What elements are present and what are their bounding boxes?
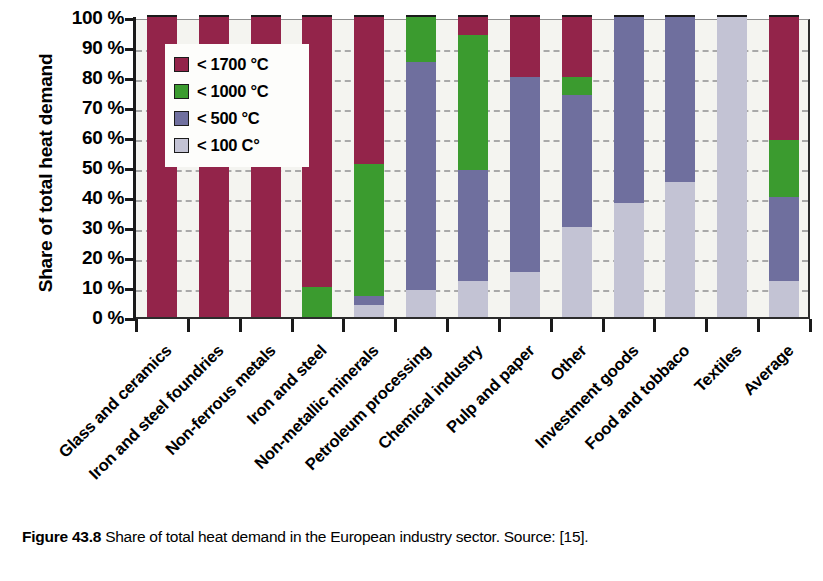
bar-segment bbox=[458, 33, 488, 170]
bar-non-metallic-minerals[interactable] bbox=[354, 17, 384, 317]
bar-chemical-industry[interactable] bbox=[458, 17, 488, 317]
legend-label: < 100 C° bbox=[197, 136, 259, 155]
bar-segment bbox=[510, 15, 540, 77]
y-axis-tick-label: 20 % bbox=[38, 247, 124, 269]
y-axis-tick bbox=[125, 228, 136, 231]
bar-segment bbox=[769, 15, 799, 140]
bar-segment bbox=[406, 60, 436, 290]
bar-segment bbox=[354, 162, 384, 296]
y-axis-tick-label: 10 % bbox=[38, 277, 124, 299]
y-axis-tick-label: 30 % bbox=[38, 217, 124, 239]
bar-segment bbox=[665, 15, 695, 182]
bar-segment bbox=[406, 15, 436, 62]
bar-segment bbox=[406, 288, 436, 317]
bar-segment bbox=[562, 93, 592, 227]
legend-item[interactable]: < 1000 °C bbox=[174, 78, 300, 105]
figure-caption: Figure 43.8 Share of total heat demand i… bbox=[22, 528, 812, 546]
legend: < 1700 °C< 1000 °C< 500 °C< 100 C° bbox=[165, 44, 309, 167]
x-axis-tick bbox=[342, 319, 345, 332]
y-axis-tick bbox=[125, 318, 136, 321]
y-axis-tick bbox=[125, 78, 136, 81]
y-axis-tick-label: 70 % bbox=[38, 97, 124, 119]
y-axis-tick bbox=[125, 258, 136, 261]
bar-segment bbox=[562, 15, 592, 77]
y-axis-tick-label: 100 % bbox=[38, 7, 124, 29]
legend-swatch-icon bbox=[174, 84, 189, 99]
y-axis-tick bbox=[125, 48, 136, 51]
x-axis-tick bbox=[239, 319, 242, 332]
bar-segment bbox=[562, 225, 592, 317]
bar-textiles[interactable] bbox=[717, 17, 747, 317]
bar-segment bbox=[354, 15, 384, 164]
bar-segment bbox=[458, 279, 488, 317]
y-axis-tick-labels: 0 %10 %20 %30 %40 %50 %60 %70 %80 %90 %1… bbox=[28, 0, 124, 340]
bar-segment bbox=[717, 15, 747, 317]
x-axis-tick bbox=[705, 319, 708, 332]
legend-swatch-icon bbox=[174, 111, 189, 126]
y-axis-tick bbox=[125, 198, 136, 201]
bar-segment bbox=[458, 15, 488, 35]
y-axis-tick-label: 50 % bbox=[38, 157, 124, 179]
legend-item[interactable]: < 1700 °C bbox=[174, 51, 300, 78]
bar-segment bbox=[769, 279, 799, 317]
x-axis-tick bbox=[653, 319, 656, 332]
bar-average[interactable] bbox=[769, 17, 799, 317]
bar-other[interactable] bbox=[562, 17, 592, 317]
bar-segment bbox=[354, 303, 384, 317]
bar-segment bbox=[302, 285, 332, 317]
x-axis-tick bbox=[498, 319, 501, 332]
bar-investment-goods[interactable] bbox=[614, 17, 644, 317]
y-axis-tick-label: 80 % bbox=[38, 67, 124, 89]
y-axis-tick bbox=[125, 288, 136, 291]
x-axis-tick bbox=[809, 319, 812, 332]
legend-label: < 1700 °C bbox=[197, 55, 268, 74]
y-axis-tick bbox=[125, 138, 136, 141]
bar-segment bbox=[614, 15, 644, 203]
bar-segment bbox=[458, 168, 488, 281]
y-axis-tick-label: 90 % bbox=[38, 37, 124, 59]
x-axis-category-labels: Glass and ceramicsIron and steel foundri… bbox=[0, 333, 823, 508]
legend-label: < 500 °C bbox=[197, 109, 259, 128]
legend-item[interactable]: < 100 C° bbox=[174, 132, 300, 159]
x-axis-tick bbox=[446, 319, 449, 332]
legend-swatch-icon bbox=[174, 138, 189, 153]
x-axis-tick bbox=[757, 319, 760, 332]
figure-caption-label: Figure 43.8 bbox=[22, 528, 101, 545]
bar-segment bbox=[510, 75, 540, 272]
figure-caption-text: Share of total heat demand in the Europe… bbox=[105, 528, 588, 545]
x-axis-tick bbox=[394, 319, 397, 332]
x-axis-ticks bbox=[136, 319, 810, 333]
bar-segment bbox=[769, 195, 799, 281]
y-axis-tick bbox=[125, 168, 136, 171]
y-axis-tick-label: 0 % bbox=[38, 307, 124, 329]
legend-item[interactable]: < 500 °C bbox=[174, 105, 300, 132]
x-axis-tick bbox=[291, 319, 294, 332]
bar-petroleum-processing[interactable] bbox=[406, 17, 436, 317]
bar-food-and-tobbaco[interactable] bbox=[665, 17, 695, 317]
y-axis-tick bbox=[125, 18, 136, 21]
x-axis-tick bbox=[602, 319, 605, 332]
y-axis-tick-label: 40 % bbox=[38, 187, 124, 209]
legend-label: < 1000 °C bbox=[197, 82, 268, 101]
legend-swatch-icon bbox=[174, 57, 189, 72]
bar-segment bbox=[769, 138, 799, 197]
bar-segment bbox=[665, 180, 695, 317]
bar-segment bbox=[510, 270, 540, 317]
x-axis-tick bbox=[550, 319, 553, 332]
figure-container: Share of total heat demand 0 %10 %20 %30… bbox=[0, 0, 823, 581]
y-axis-tick bbox=[125, 108, 136, 111]
bar-segment bbox=[614, 201, 644, 317]
bar-segment bbox=[562, 75, 592, 95]
y-axis-tick-label: 60 % bbox=[38, 127, 124, 149]
bar-pulp-and-paper[interactable] bbox=[510, 17, 540, 317]
x-axis-tick bbox=[187, 319, 190, 332]
